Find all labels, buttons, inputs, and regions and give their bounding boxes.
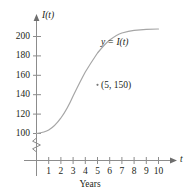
- x-tick-label-7: 7: [116, 167, 128, 177]
- x-axis-caption: Years: [60, 180, 120, 190]
- x-tick-label-9: 9: [140, 167, 152, 177]
- x-axis-arrow-icon: [170, 158, 177, 164]
- curve-equation-label: y = I(t): [101, 38, 129, 48]
- y-tick-label-120: 120: [10, 110, 30, 120]
- x-tick-label-10: 10: [152, 167, 166, 177]
- data-point-label: (5, 150): [101, 81, 131, 91]
- x-tick-label-1: 1: [43, 167, 55, 177]
- x-tick-label-3: 3: [67, 167, 79, 177]
- y-axis-arrow-icon: [34, 14, 40, 21]
- y-tick-label-160: 160: [10, 71, 30, 81]
- data-point-marker: [96, 84, 98, 86]
- x-tick-label-6: 6: [104, 167, 116, 177]
- x-tick-label-2: 2: [55, 167, 67, 177]
- x-tick-label-4: 4: [79, 167, 91, 177]
- logistic-growth-chart: I(t) t 200 180 160 140 120 100 1 2 3 4 5…: [0, 0, 190, 196]
- y-axis-label: I(t): [42, 11, 54, 21]
- y-tick-label-200: 200: [10, 32, 30, 42]
- y-tick-label-140: 140: [10, 90, 30, 100]
- logistic-curve: [37, 29, 159, 134]
- x-axis-label: t: [180, 155, 183, 165]
- y-tick-label-180: 180: [10, 51, 30, 61]
- y-tick-label-100: 100: [10, 129, 30, 139]
- x-tick-label-8: 8: [128, 167, 140, 177]
- x-tick-label-5: 5: [92, 167, 104, 177]
